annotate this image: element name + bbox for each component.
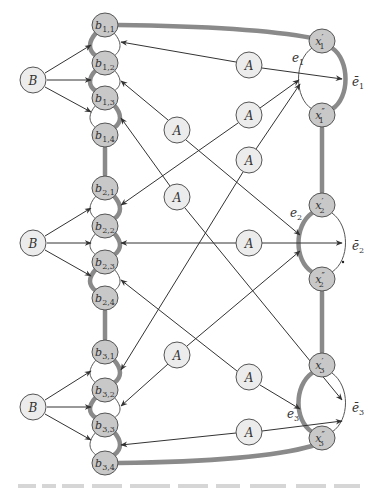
A-node-2: A [164,117,190,143]
svg-text:A: A [244,109,254,123]
thick-b-arc-2a [114,196,120,219]
thick-edge-b11-x1p [118,25,312,38]
x-node-3-dprime: x″3 [309,426,335,450]
b-node-3-2: b3,2 [92,378,118,402]
x-node-3-prime: x′3 [309,353,335,377]
A-node-5: A [164,184,190,210]
b-node-3-1: b3,1 [92,340,118,364]
b-node-3-4: b3,4 [92,451,118,475]
label-e2: e2 [290,206,302,222]
thick-b-arc-1a [90,33,96,56]
B-node-1: B [20,67,46,93]
thick-b-arc-2b [114,233,120,255]
stray-dot [342,261,344,263]
svg-text:A: A [244,371,254,385]
thick-arc-e3 [299,373,313,432]
b-node-2-2: b2,2 [92,214,118,238]
svg-text:A: A [244,426,254,440]
b-node-2-3: b2,3 [92,250,118,274]
B-edges [45,45,91,440]
svg-text:A: A [172,349,182,363]
label-e2-bar: ē2 [352,239,364,255]
thick-b-arc-3a [114,360,120,383]
thick-b-arc-1c [114,105,120,128]
svg-text:B: B [28,401,38,415]
x-node-2-dprime: x″2 [309,267,335,291]
A-node-1: A [236,52,262,78]
svg-text:A: A [244,237,254,251]
svg-text:B: B [28,237,38,251]
b-node-1-3: b1,3 [92,86,118,110]
label-e1-bar: ē1 [352,75,364,91]
svg-text:A: A [244,59,254,73]
b-node-2-1: b2,1 [92,176,118,200]
svg-text:B: B [28,74,38,88]
thick-edge-b34-x3pp [118,446,312,463]
b-node-1-4: b1,4 [92,123,118,147]
A-node-3: A [236,102,262,128]
thick-b-arc-2c [90,269,96,291]
thick-b-arc-3c [114,432,120,455]
b-node-3-3: b3,3 [92,413,118,437]
A-node-7: A [164,342,190,368]
svg-text:A: A [244,154,254,168]
b-node-1-1: b1,1 [92,13,118,37]
thin-arcs [90,33,346,455]
thick-edges [90,25,346,463]
A-node-9: A [236,419,262,445]
A-node-6: A [236,230,262,256]
B-node-2: B [20,230,46,256]
A-nodes: A A A A A A A A A [164,52,262,445]
x-node-1-dprime: x″1 [309,103,335,127]
label-e1: e1 [292,51,304,67]
A-node-4: A [236,147,262,173]
b-node-1-2: b1,2 [92,51,118,75]
caption-fragment [18,484,360,488]
svg-text:A: A [172,124,182,138]
b-node-2-4: b2,4 [92,286,118,310]
B-nodes: B B B [20,67,46,420]
gadget-diagram: B B B b1,1 b1,2 b1,3 b1,4 b2,1 b2,2 b2,3 [0,0,381,488]
svg-text:A: A [172,191,182,205]
label-e3-bar: ē3 [352,401,364,417]
b-nodes: b1,1 b1,2 b1,3 b1,4 b2,1 b2,2 b2,3 b2,4 … [92,13,118,475]
A-node-8: A [236,364,262,390]
A-edges [121,42,342,445]
B-node-3: B [20,394,46,420]
x-node-1-prime: x′1 [309,29,335,53]
x-node-2-prime: x′2 [309,193,335,217]
